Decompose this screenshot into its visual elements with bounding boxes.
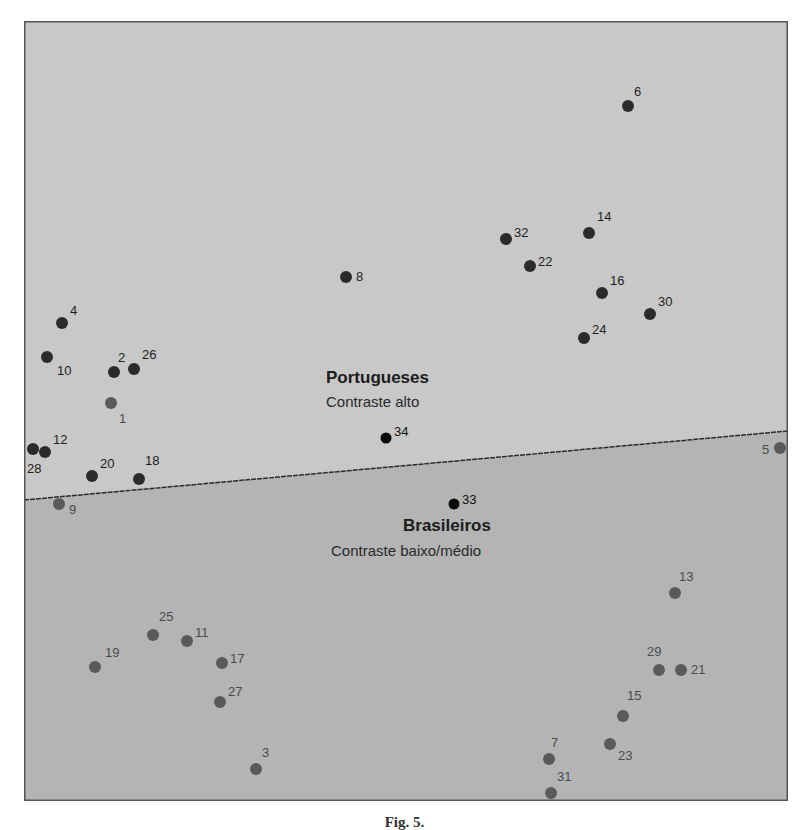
point-marker (500, 233, 512, 245)
point-marker (86, 470, 98, 482)
point-label: 4 (70, 303, 77, 318)
point-marker (578, 332, 590, 344)
point-marker (596, 287, 608, 299)
point-marker (545, 787, 557, 799)
point-marker (669, 587, 681, 599)
point-label: 30 (658, 294, 672, 309)
point-marker (133, 473, 145, 485)
figure-caption: Fig. 5. (0, 814, 809, 830)
point-label: 18 (145, 453, 159, 468)
point-marker (128, 363, 140, 375)
point-label: 3 (262, 745, 269, 760)
point-label: 29 (647, 644, 661, 659)
data-point-21: 21 (675, 662, 705, 677)
point-marker (449, 499, 460, 510)
point-label: 21 (691, 662, 705, 677)
point-label: 34 (394, 424, 408, 439)
point-label: 25 (159, 609, 173, 624)
point-marker (181, 635, 193, 647)
point-label: 22 (538, 254, 552, 269)
point-marker (105, 397, 117, 409)
point-label: 12 (53, 432, 67, 447)
point-marker (216, 657, 228, 669)
scatter-plot: Portugueses Contraste alto Brasileiros C… (24, 21, 788, 801)
point-label: 24 (592, 322, 606, 337)
point-label: 15 (627, 688, 641, 703)
point-marker (543, 753, 555, 765)
point-marker (39, 446, 51, 458)
point-label: 1 (119, 411, 126, 426)
point-label: 19 (105, 645, 119, 660)
point-label: 2 (118, 350, 125, 365)
region-subtitle-portugueses: Contraste alto (326, 393, 419, 410)
point-marker (774, 442, 786, 454)
point-label: 16 (610, 273, 624, 288)
point-marker (214, 696, 226, 708)
point-label: 17 (230, 651, 244, 666)
point-marker (41, 351, 53, 363)
point-label: 23 (618, 748, 632, 763)
point-marker (340, 271, 352, 283)
point-marker (56, 317, 68, 329)
point-label: 9 (69, 502, 76, 517)
point-label: 8 (356, 269, 363, 284)
point-marker (524, 260, 536, 272)
point-label: 26 (142, 347, 156, 362)
point-label: 10 (57, 363, 71, 378)
point-marker (381, 433, 392, 444)
point-marker (27, 443, 39, 455)
point-label: 7 (551, 735, 558, 750)
point-label: 14 (597, 209, 611, 224)
point-label: 32 (514, 225, 528, 240)
point-label: 5 (762, 442, 769, 457)
point-marker (108, 366, 120, 378)
point-label: 33 (462, 492, 476, 507)
region-title-portugueses: Portugueses (326, 368, 429, 387)
point-label: 31 (557, 769, 571, 784)
point-marker (617, 710, 629, 722)
point-marker (675, 664, 687, 676)
point-label: 13 (679, 569, 693, 584)
point-marker (653, 664, 665, 676)
region-title-brasileiros: Brasileiros (403, 516, 491, 535)
point-marker (53, 498, 65, 510)
point-marker (604, 738, 616, 750)
point-label: 28 (27, 461, 41, 476)
point-label: 20 (100, 456, 114, 471)
point-marker (147, 629, 159, 641)
point-marker (644, 308, 656, 320)
point-marker (250, 763, 262, 775)
point-label: 6 (634, 84, 641, 99)
point-marker (89, 661, 101, 673)
point-label: 11 (195, 625, 209, 640)
point-marker (583, 227, 595, 239)
point-marker (622, 100, 634, 112)
region-subtitle-brasileiros: Contraste baixo/médio (331, 542, 481, 559)
point-label: 27 (228, 684, 242, 699)
